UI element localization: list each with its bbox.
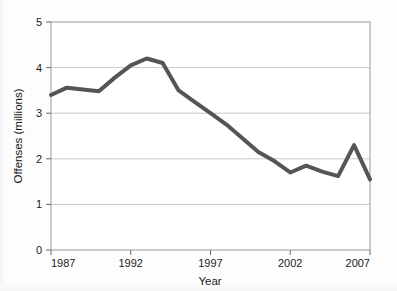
y-tick-label: 1 <box>36 198 42 210</box>
y-tick-label: 4 <box>36 62 42 74</box>
y-axis-ticks: 012345 <box>36 16 51 256</box>
x-axis-title: Year <box>198 275 221 287</box>
x-tick-label: 2002 <box>278 257 302 269</box>
y-axis-title: Offenses (millions) <box>12 88 24 183</box>
y-tick-label: 5 <box>36 16 42 28</box>
figure-container: 012345 19871992199720022007 Year Offense… <box>0 0 397 291</box>
x-tick-label: 1992 <box>119 257 143 269</box>
x-tick-label: 1987 <box>51 257 75 269</box>
x-axis-ticks: 19871992199720022007 <box>51 250 370 269</box>
y-tick-label: 2 <box>36 153 42 165</box>
plot-area-background <box>51 22 370 250</box>
line-chart: 012345 19871992199720022007 Year Offense… <box>0 0 397 291</box>
x-tick-label: 2007 <box>346 257 370 269</box>
y-tick-label: 0 <box>36 244 42 256</box>
x-tick-label: 1997 <box>198 257 222 269</box>
y-tick-label: 3 <box>36 107 42 119</box>
